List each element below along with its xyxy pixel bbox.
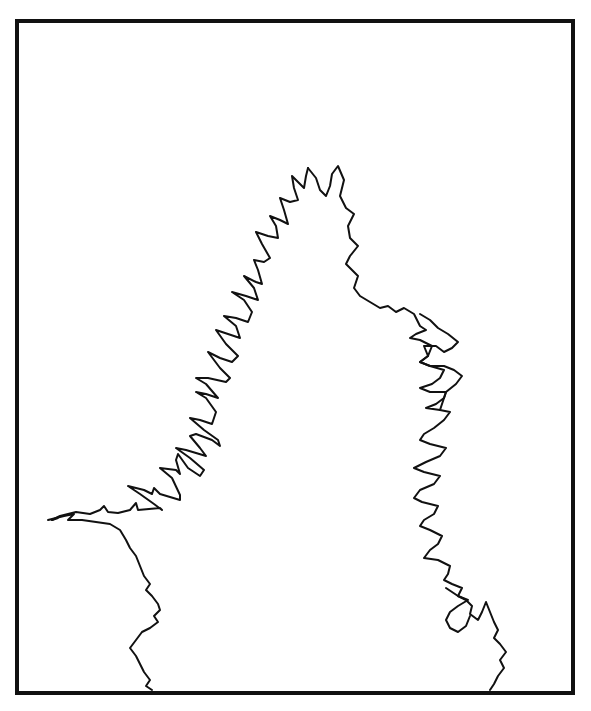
background [0, 0, 591, 711]
figure-canvas [0, 0, 591, 711]
